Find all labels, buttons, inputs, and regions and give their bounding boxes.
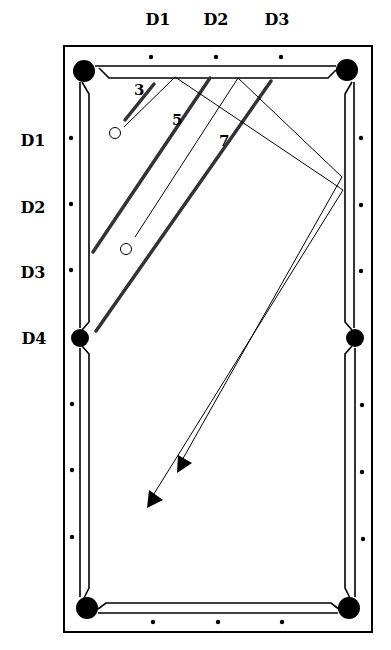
aim-label-3: 3 — [134, 81, 144, 99]
rails — [80, 66, 355, 613]
diamonds — [69, 55, 365, 624]
aim-label-5: 5 — [172, 111, 182, 129]
arrowhead-path-2 — [177, 455, 192, 473]
pocket-top-left — [73, 60, 95, 82]
pocket-bottom-right — [338, 597, 360, 619]
left-label-d4: D4 — [21, 329, 46, 348]
pockets — [71, 59, 364, 619]
pocket-bottom-left — [76, 597, 98, 619]
pocket-middle-right — [346, 329, 364, 347]
left-label-d2: D2 — [20, 198, 45, 217]
left-label-d1: D1 — [20, 131, 45, 150]
aim-label-7: 7 — [219, 132, 229, 150]
top-label-d2: D2 — [203, 10, 228, 29]
top-label-d1: D1 — [145, 10, 170, 29]
cue-ball-2 — [121, 244, 132, 255]
pocket-top-right — [336, 59, 358, 81]
ball-paths — [124, 77, 343, 497]
billiards-diagram: D1 D2 D3 D1 D2 D3 D4 — [0, 0, 391, 650]
pocket-middle-left — [71, 329, 89, 347]
path-ball-1 — [124, 77, 343, 497]
aim-line-5 — [93, 78, 210, 252]
top-label-d3: D3 — [264, 10, 289, 29]
left-label-d3: D3 — [20, 263, 45, 282]
cue-ball-1 — [110, 128, 121, 139]
path-ball-2 — [135, 78, 342, 462]
